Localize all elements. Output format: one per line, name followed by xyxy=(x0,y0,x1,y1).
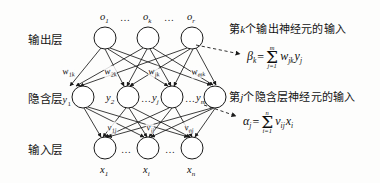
output-ellipsis-1: … xyxy=(120,12,131,23)
input-ellipsis-2: … xyxy=(165,144,176,155)
formula-beta-lhs: βk xyxy=(247,49,256,65)
formula-alpha-term-x: xi xyxy=(286,114,293,130)
formula-beta-term-y: yj xyxy=(295,49,302,65)
input-node-label-1: x1 xyxy=(100,164,108,178)
input-node-label-n: xn xyxy=(187,164,195,178)
hidden-node-label-j: yj xyxy=(152,92,159,106)
annotation-hidden-neuron-input: 第j个隐含层神经元的输入 xyxy=(229,88,355,104)
formula-beta-equals: = xyxy=(257,50,264,65)
weight-label-w1k: w1k xyxy=(61,65,75,78)
formula-beta-summation: m Σ j=1 xyxy=(266,45,278,70)
hidden-ellipsis-1: … xyxy=(141,93,152,104)
formula-alpha-equals: = xyxy=(252,115,259,130)
layer-label-output: 输出层 xyxy=(28,31,63,47)
weight-label-wmk: wmk xyxy=(190,65,205,78)
input-node-label-i: xi xyxy=(143,164,150,178)
output-ellipsis-2: … xyxy=(164,12,175,23)
weight-label-vnj: vnj xyxy=(183,122,194,135)
formula-beta: βk = m Σ j=1 wjk yj xyxy=(247,45,302,70)
input-ellipsis-1: … xyxy=(121,144,132,155)
output-node-label-1: o1 xyxy=(100,11,109,25)
weight-label-v1j: v1j xyxy=(106,122,117,135)
formula-alpha-lhs: αj xyxy=(243,114,251,130)
output-node-label-3: or xyxy=(187,11,195,25)
hidden-ellipsis-2: … xyxy=(185,93,196,104)
weight-label-w2k: w2k xyxy=(103,65,117,78)
formula-beta-sum-lower: j=1 xyxy=(267,63,276,70)
layer-label-hidden: 隐含层y1 xyxy=(28,90,71,108)
hidden-node-label-m: ym xyxy=(196,92,206,106)
output-node-label-2: ok xyxy=(143,11,151,25)
formula-alpha-summation: n Σ i=1 xyxy=(261,110,273,135)
layer-label-input: 输入层 xyxy=(28,141,63,157)
annotation-output-neuron-input: 第k个输出神经元的输入 xyxy=(229,20,346,36)
formula-alpha-term-v: vij xyxy=(275,114,285,130)
formula-beta-term-w: wjk xyxy=(280,49,293,65)
neural-network-diagram: 输出层 隐含层y1 输入层 o1 ok or … … y2 yj ym … … … xyxy=(0,0,380,183)
layer-label-hidden-node: y1 xyxy=(63,94,72,105)
weight-label-wjk: wjk xyxy=(147,65,160,78)
input-layer-nodes xyxy=(94,137,203,159)
output-layer-nodes xyxy=(94,27,203,49)
formula-alpha: αj = n Σ i=1 vij xi xyxy=(243,110,293,135)
formula-alpha-sum-lower: i=1 xyxy=(262,128,271,135)
weight-label-vij: vij xyxy=(145,122,155,135)
layer-label-hidden-text: 隐含层 xyxy=(28,92,63,106)
hidden-node-label-2: y2 xyxy=(106,92,114,106)
callout-arrow-beta xyxy=(196,45,240,54)
